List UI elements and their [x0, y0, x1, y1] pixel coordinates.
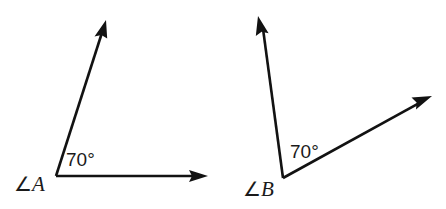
angle-b-symbol-glyph: ∠ [243, 178, 261, 200]
angle-b-vertex-label: ∠B [243, 177, 274, 201]
angle-diagram-svg: 70° ∠A 70° ∠B [0, 0, 446, 209]
angle-b-measure-label: 70° [290, 141, 319, 162]
angle-a-vertex-label: ∠A [14, 172, 45, 196]
angle-a-measure-label: 70° [66, 149, 95, 170]
angle-a-symbol-glyph: ∠ [14, 173, 32, 195]
angle-a-letter-glyph: A [30, 172, 45, 196]
angle-b-letter-glyph: B [261, 177, 274, 201]
diagram-canvas: 70° ∠A 70° ∠B [0, 0, 446, 209]
canvas-background [0, 0, 446, 209]
